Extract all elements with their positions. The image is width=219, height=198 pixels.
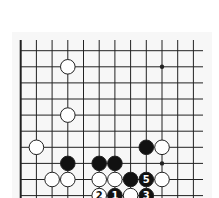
black-stone-icon (108, 156, 123, 171)
white-stone (61, 108, 76, 123)
white-stone (29, 140, 44, 155)
white-stone (45, 172, 60, 187)
white-stone-icon (61, 60, 76, 75)
black-stone-move-5: 5 (139, 172, 154, 187)
white-stone-icon (61, 172, 76, 187)
go-board: 5213 (0, 0, 219, 198)
white-stone-icon (155, 140, 170, 155)
star-point-icon (160, 65, 164, 69)
white-stone-move-2: 2 (92, 188, 107, 198)
white-stone (92, 172, 107, 187)
white-stone-icon (123, 188, 138, 198)
star-point-icon (160, 161, 164, 165)
black-stone (92, 156, 107, 171)
white-stone (108, 172, 123, 187)
black-stone-icon (92, 156, 107, 171)
white-stone-icon (61, 108, 76, 123)
black-stone-move-1: 1 (108, 188, 123, 198)
white-stone (155, 140, 170, 155)
white-stone-icon (108, 172, 123, 187)
white-stone (123, 188, 138, 198)
white-stone-icon (155, 172, 170, 187)
white-stone (155, 172, 170, 187)
white-stone-icon (29, 140, 44, 155)
black-stone (139, 140, 154, 155)
white-stone (61, 172, 76, 187)
black-stone-icon (139, 140, 154, 155)
move-number-label: 1 (111, 190, 118, 198)
black-stone-icon (123, 172, 138, 187)
black-stone (108, 156, 123, 171)
black-stone (123, 172, 138, 187)
white-stone-icon (45, 172, 60, 187)
black-stone (61, 156, 76, 171)
black-stone-move-3: 3 (139, 188, 154, 198)
white-stone-icon (92, 172, 107, 187)
move-number-label: 5 (143, 174, 150, 185)
move-number-label: 2 (96, 190, 103, 198)
white-stone (61, 60, 76, 75)
move-number-label: 3 (143, 190, 150, 198)
black-stone-icon (61, 156, 76, 171)
